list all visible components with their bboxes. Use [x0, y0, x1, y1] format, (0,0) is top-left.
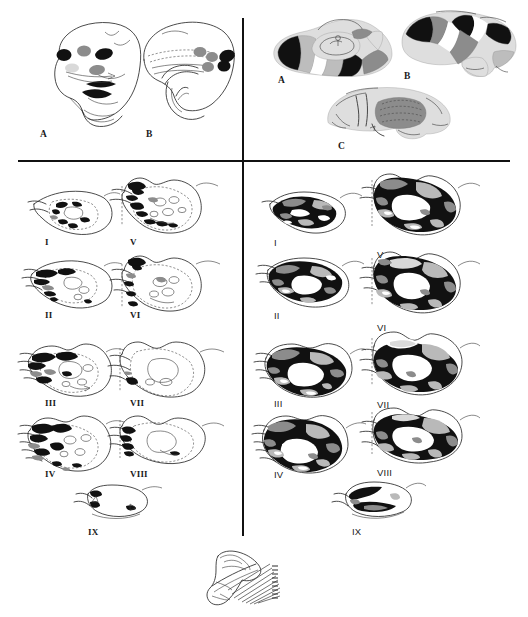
label-right-section-ix: IX — [352, 527, 361, 537]
figure-canvas: A B — [0, 0, 528, 617]
coronal-section-left-viii — [108, 412, 224, 474]
shaded-hemisphere-c — [322, 84, 458, 144]
label-right-section-ii: II — [274, 311, 280, 321]
panel-bottom-right: I II — [242, 160, 528, 560]
label-top-right-c: C — [338, 142, 345, 152]
label-right-section-iii: III — [274, 399, 283, 409]
label-left-section-vi: VI — [130, 311, 140, 320]
panel-top-left: A B — [0, 0, 242, 160]
label-top-right-a: A — [278, 76, 285, 86]
coronal-section-left-i — [28, 180, 120, 240]
coronal-section-right-v — [360, 170, 480, 242]
coronal-section-right-ix — [330, 478, 426, 528]
hemisphere-drawing-a — [26, 10, 146, 132]
coronal-section-left-vi — [110, 252, 222, 318]
label-left-section-iii: III — [45, 399, 56, 408]
coronal-section-right-iii — [254, 338, 366, 406]
coronal-section-left-v — [110, 174, 220, 240]
coronal-section-right-ii — [256, 250, 364, 314]
panel-bottom-key — [198, 548, 293, 610]
label-left-section-ii: II — [45, 311, 52, 320]
panel-bottom-left: I II — [0, 160, 242, 560]
label-top-right-b: B — [404, 72, 411, 82]
coronal-section-right-viii — [358, 404, 480, 470]
sagittal-section-level-key-drawing — [198, 548, 293, 610]
label-top-left-a: A — [40, 130, 47, 140]
shaded-hemisphere-a — [266, 12, 398, 84]
label-left-section-v: V — [130, 238, 137, 247]
label-left-section-i: I — [45, 238, 49, 247]
label-left-section-iv: IV — [45, 470, 55, 479]
coronal-section-right-iv — [252, 410, 366, 480]
label-top-left-b: B — [146, 130, 153, 140]
label-right-section-viii: VIII — [377, 468, 392, 478]
coronal-section-left-vii — [108, 338, 224, 404]
coronal-section-right-i — [262, 180, 362, 240]
coronal-section-right-vi — [360, 248, 480, 320]
coronal-section-right-vii — [358, 328, 480, 400]
panel-top-right: A B — [242, 0, 528, 160]
label-left-section-ix: IX — [88, 528, 98, 537]
shaded-hemisphere-b — [396, 8, 522, 82]
hemisphere-drawing-b — [132, 10, 242, 132]
label-right-section-iv: IV — [274, 470, 283, 480]
label-left-section-vii: VII — [130, 399, 144, 408]
coronal-section-left-ii — [22, 252, 122, 314]
coronal-section-left-ix — [72, 480, 162, 526]
label-right-section-i: I — [274, 238, 277, 248]
label-left-section-viii: VIII — [130, 470, 148, 479]
